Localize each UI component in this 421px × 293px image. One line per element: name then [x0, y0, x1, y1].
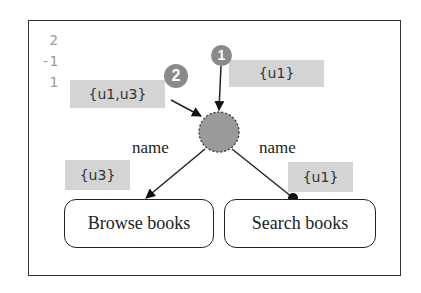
node-browse-books: Browse books [64, 199, 214, 248]
edges [0, 0, 421, 293]
edge-label-left: name [132, 138, 169, 158]
badge-2: 2 [164, 64, 188, 88]
tag-browse: {u3} [65, 160, 130, 190]
node-search-books: Search books [224, 199, 376, 248]
tag-left: {u1,u3} [70, 80, 165, 108]
edge-label-right: name [259, 138, 296, 158]
badge-1: 1 [211, 45, 232, 66]
center-node [199, 112, 239, 152]
arrow-1 [219, 66, 221, 110]
arrow-2 [171, 100, 201, 116]
tag-top-right: {u1} [229, 60, 324, 87]
tag-search: {u1} [288, 162, 353, 192]
